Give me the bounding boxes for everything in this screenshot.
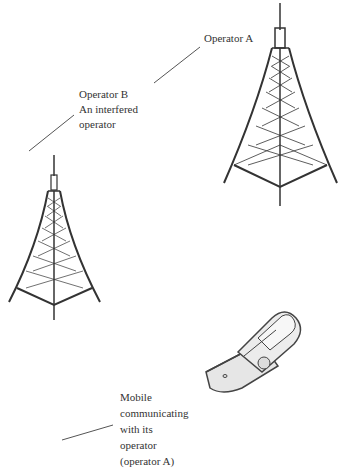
label-line: operator	[120, 437, 188, 453]
diagram-canvas: Operator A Operator B An interfered oper…	[0, 0, 345, 470]
label-operator-a: Operator A	[204, 31, 253, 46]
label-line: Mobile	[120, 389, 188, 405]
label-line: operator	[79, 117, 138, 132]
label-operator-b: Operator B An interfered operator	[79, 87, 138, 132]
leader-line-mobile	[62, 425, 113, 440]
label-line: Operator A	[204, 31, 253, 46]
label-line: Operator B	[79, 87, 138, 102]
label-mobile: Mobile communicating with its operator (…	[120, 389, 188, 469]
leader-line-operator-b	[29, 115, 74, 151]
label-line: with its	[120, 421, 188, 437]
label-line: An interfered	[79, 102, 138, 117]
label-line: (operator A)	[120, 453, 188, 469]
leader-line-operator-a	[154, 47, 200, 83]
mobile-phone-icon	[206, 312, 301, 392]
label-line: communicating	[120, 405, 188, 421]
tower-b-icon	[9, 155, 100, 320]
